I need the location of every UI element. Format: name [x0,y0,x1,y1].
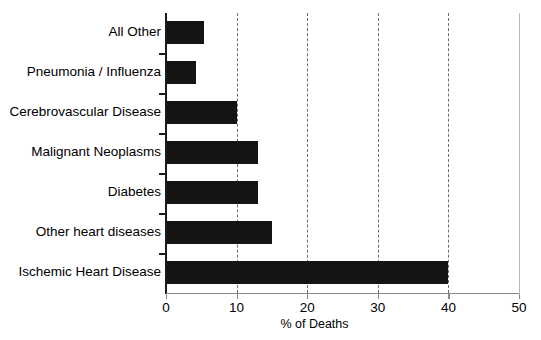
category-label: Diabetes [1,184,161,200]
category-label: Pneumonia / Influenza [1,64,161,80]
category-label: Malignant Neoplasms [1,144,161,160]
x-axis-title-text: % of Deaths [280,317,348,331]
bar-diabetes [166,181,258,204]
category-label: Ischemic Heart Disease [1,264,161,280]
x-tick-label: 20 [287,299,327,316]
category-label: All Other [1,24,161,40]
x-tick-label: 30 [358,299,398,316]
gridline-30 [378,13,379,293]
bar-other-heart-diseases [166,221,272,244]
plot-area [166,13,519,293]
x-tick-label: 10 [217,299,257,316]
category-label: Cerebrovascular Disease [1,104,161,120]
bar-cerebrovascular-disease [166,101,237,124]
bar-ischemic-heart-disease [166,261,448,284]
bar-chart: All Other Pneumonia / Influenza Cerebrov… [0,0,541,340]
x-tick-label: 0 [146,299,186,316]
category-axis-labels: All Other Pneumonia / Influenza Cerebrov… [0,0,161,340]
y-axis-line [165,13,167,294]
x-tick-label: 50 [499,299,539,316]
bar-pneumonia-influenza [166,61,196,84]
bar-all-other [166,21,204,44]
x-tick-label: 40 [428,299,468,316]
plot-right-edge [519,13,520,294]
bar-malignant-neoplasms [166,141,258,164]
x-axis-line [166,293,519,294]
gridline-20 [307,13,308,293]
category-label: Other heart diseases [1,224,161,240]
x-axis-title: % of Deaths [0,317,541,332]
gridline-40 [448,13,449,293]
